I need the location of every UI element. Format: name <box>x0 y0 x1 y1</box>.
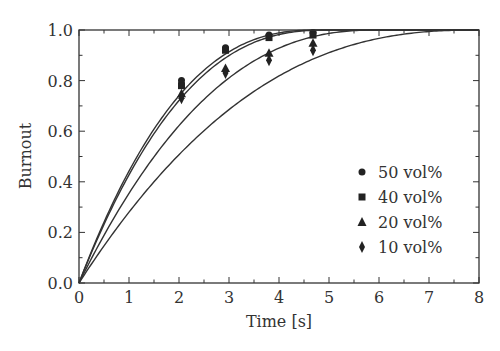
legend-label: 20 vol% <box>378 213 442 232</box>
x-tick-label: 7 <box>424 288 434 307</box>
diamond-marker-icon <box>359 241 365 253</box>
legend-label: 40 vol% <box>378 188 442 207</box>
burnout-chart: 012345678 0.00.20.40.60.81.0 Time [s] Bu… <box>0 0 500 351</box>
legend-item-1: 40 vol% <box>359 188 443 207</box>
legend-label: 10 vol% <box>378 238 442 257</box>
x-tick-label: 6 <box>374 288 384 307</box>
square-data-point <box>266 34 273 41</box>
x-tick-label: 2 <box>174 288 184 307</box>
x-tick-label: 8 <box>474 288 484 307</box>
legend-label: 50 vol% <box>378 163 442 182</box>
x-tick-label: 1 <box>124 288 134 307</box>
square-marker-icon <box>359 194 366 201</box>
x-tick-label: 5 <box>324 288 334 307</box>
square-data-point <box>222 47 229 54</box>
y-tick-label: 0.2 <box>48 223 73 242</box>
triangle-marker-icon <box>358 217 367 226</box>
x-tick-label: 4 <box>274 288 284 307</box>
x-axis-title: Time [s] <box>246 312 312 331</box>
y-tick-label: 0.0 <box>48 274 73 293</box>
y-tick-label: 1.0 <box>48 21 73 40</box>
y-tick-label: 0.8 <box>48 72 73 91</box>
x-tick-label: 3 <box>224 288 234 307</box>
y-axis-title: Burnout <box>16 122 35 189</box>
y-tick-labels: 0.00.20.40.60.81.0 <box>48 21 73 293</box>
circle-marker-icon <box>359 169 366 176</box>
x-tick-labels: 012345678 <box>74 288 484 307</box>
legend: 50 vol% 40 vol% 20 vol% 10 vol% <box>358 163 443 257</box>
square-data-point <box>178 82 185 89</box>
y-tick-label: 0.6 <box>48 122 73 141</box>
legend-item-2: 20 vol% <box>358 213 443 232</box>
legend-item-3: 10 vol% <box>359 238 442 257</box>
y-tick-label: 0.4 <box>48 173 73 192</box>
x-tick-label: 0 <box>74 288 84 307</box>
legend-item-0: 50 vol% <box>359 163 443 182</box>
square-data-point <box>310 32 317 39</box>
